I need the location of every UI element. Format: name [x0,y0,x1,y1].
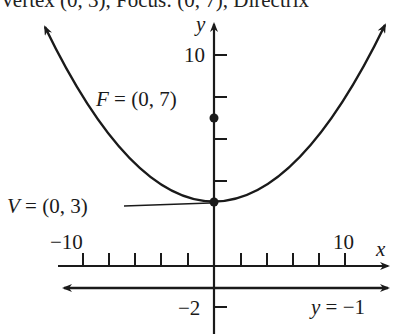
directrix-var: y [309,295,321,319]
y-axis-label: y [194,12,206,36]
focus-label: F = (0, 7) [95,87,177,111]
directrix-label: y = −1 [309,295,365,319]
vertex-point [210,198,219,207]
focus-equals: = [109,87,131,111]
x-tick-label-neg10: −10 [50,230,83,254]
focus-coords: (0, 7) [131,87,177,111]
directrix-rest: = −1 [320,295,365,319]
y-ticks [214,55,227,307]
y-tick-label-neg2: −2 [178,296,200,320]
focus-prefix: F [95,87,109,111]
y-tick-label-10: 10 [184,43,205,67]
x-tick-label-10: 10 [333,230,354,254]
vertex-equals: = [20,194,42,218]
vertex-coords: (0, 3) [42,194,88,218]
vertex-leader [124,203,210,206]
vertex-label: V = (0, 3) [7,194,88,218]
x-axis-label: x [375,237,386,261]
focus-point [210,114,219,123]
parabola-graph: y 10 −2 −10 10 x F = (0, 7) V = (0, 3) y… [0,0,395,334]
